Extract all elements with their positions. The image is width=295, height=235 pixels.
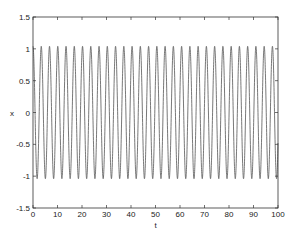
series-line [33, 46, 278, 178]
x-tick-label: 60 [176, 210, 185, 219]
y-tick-label: -1.5 [16, 204, 30, 213]
line-chart: 0102030405060708090100 -1.5-1-0.500.511.… [0, 0, 295, 235]
y-tick-label: 0 [26, 109, 31, 118]
y-tick-label: 1 [26, 45, 31, 54]
x-tick-label: 70 [200, 210, 209, 219]
data-series-x [33, 46, 278, 178]
y-tick-label: 0.5 [19, 77, 31, 86]
x-tick-label: 0 [31, 210, 36, 219]
x-tick-label: 90 [249, 210, 258, 219]
y-axis-label: x [10, 109, 14, 118]
y-tick-label: -0.5 [16, 140, 30, 149]
y-tick-label: 1.5 [19, 13, 31, 22]
x-tick-label: 100 [271, 210, 285, 219]
x-tick-label: 80 [225, 210, 234, 219]
x-tick-label: 30 [102, 210, 111, 219]
y-tick-label: -1 [23, 172, 31, 181]
x-tick-label: 10 [53, 210, 62, 219]
x-tick-label: 40 [127, 210, 136, 219]
x-tick-label: 50 [151, 210, 160, 219]
x-tick-label: 20 [78, 210, 87, 219]
x-axis-label: t [154, 221, 157, 230]
